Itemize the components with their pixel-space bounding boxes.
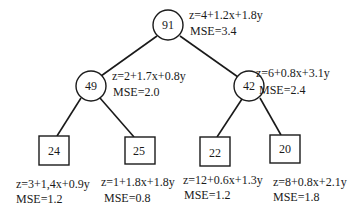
node-right-value: 42 <box>243 79 255 93</box>
leaf-node: 24 z=3+1,4x+0.9y MSE=1.2 <box>16 136 90 206</box>
edge-left-leaf2 <box>100 98 134 137</box>
leaf-equation: z=1+1.8x+1.8y <box>101 175 175 189</box>
edge-right-leaf3 <box>217 99 242 137</box>
leaf-mse: MSE=0.8 <box>104 191 150 205</box>
leaf-mse: MSE=1.2 <box>16 192 62 206</box>
node-left: 49 z=2+1.7x+0.8y MSE=2.0 <box>76 69 186 101</box>
leaf-value: 25 <box>133 144 145 158</box>
leaf-node: 20 z=8+0.8x+2.1y MSE=1.8 <box>270 135 347 204</box>
leaf-mse: MSE=1.2 <box>184 188 230 202</box>
node-right-mse: MSE=2.4 <box>259 83 305 97</box>
leaf-equation: z=3+1,4x+0.9y <box>16 177 90 191</box>
node-right: 42 z=6+0.8x+3.1y MSE=2.4 <box>234 66 330 101</box>
leaf-value: 24 <box>48 144 60 158</box>
node-root: 91 z=4+1.2x+1.8y MSE=3.4 <box>153 8 263 40</box>
node-left-value: 49 <box>85 79 97 93</box>
node-root-mse: MSE=3.4 <box>190 24 236 38</box>
leaf-equation: z=12+0.6x+1.3y <box>183 173 263 187</box>
node-right-equation: z=6+0.8x+3.1y <box>256 66 330 80</box>
leaf-equation: z=8+0.8x+2.1y <box>273 175 347 189</box>
node-left-equation: z=2+1.7x+0.8y <box>112 69 186 83</box>
leaf-node: 22 z=12+0.6x+1.3y MSE=1.2 <box>183 137 263 202</box>
node-root-value: 91 <box>162 18 174 32</box>
leaf-mse: MSE=1.8 <box>273 190 319 204</box>
node-root-equation: z=4+1.2x+1.8y <box>189 8 263 22</box>
node-left-mse: MSE=2.0 <box>113 85 159 99</box>
edge-right-leaf4 <box>260 98 281 135</box>
leaf-value: 20 <box>279 142 291 156</box>
edge-root-right <box>180 36 238 77</box>
edge-left-leaf1 <box>57 98 81 136</box>
leaf-node: 25 z=1+1.8x+1.8y MSE=0.8 <box>101 137 175 205</box>
leaf-value: 22 <box>209 146 221 160</box>
model-tree-diagram: 91 z=4+1.2x+1.8y MSE=3.4 49 z=2+1.7x+0.8… <box>0 0 362 208</box>
